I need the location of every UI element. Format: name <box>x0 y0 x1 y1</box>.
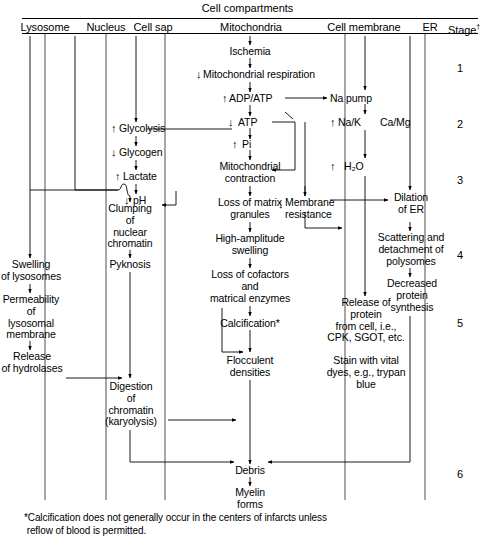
node-membrane-resistance: Membrane resistance <box>285 197 349 221</box>
node-atp: ATP <box>238 117 268 129</box>
arrow-glycolysis: ↑ <box>111 123 117 134</box>
arrow-glycogen: ↓ <box>111 147 117 158</box>
arrow-atp: ↓ <box>228 117 234 128</box>
figure-title: Cell compartments <box>0 2 495 14</box>
node-pi: Pi <box>242 139 264 151</box>
arrow-membrane-resistance: ↓ <box>278 199 284 210</box>
node-flocculent-densities: Flocculent densities <box>200 355 300 379</box>
node-debris: Debris <box>214 465 286 477</box>
column-header-stage: Stage† <box>436 21 492 36</box>
node-myelin-forms: Myelin forms <box>214 487 286 511</box>
flowchart-diagram: Cell compartments Lysosome Nucleus Cell … <box>0 0 495 547</box>
node-stain-with-vital-dyes: Stain with vital dyes, e.g., trypan blue <box>306 355 426 390</box>
column-header-cell-sap: Cell sap <box>108 21 198 33</box>
stage-number-6: 6 <box>448 468 472 480</box>
arrow-pi: ↑ <box>232 139 238 150</box>
stage-number-3: 3 <box>448 174 472 186</box>
footnote: *Calcification does not generally occur … <box>24 511 464 537</box>
node-loss-of-cofactors: Loss of cofactors and matrical enzymes <box>178 269 322 304</box>
node-permeability-of-lysosomal-membrane: Permeability of lysosomal membrane <box>0 294 62 341</box>
node-ischemia: Ischemia <box>205 46 295 58</box>
node-glycogen: Glycogen <box>119 147 179 159</box>
arrow-adp-atp: ↑ <box>222 93 228 104</box>
arrow-mitochondrial-respiration: ↓ <box>196 69 202 80</box>
node-calcification: Calcification* <box>203 318 297 330</box>
node-high-amplitude-swelling: High-amplitude swelling <box>190 233 310 257</box>
node-h2o: H₂O <box>344 161 374 173</box>
node-swelling-of-lysosomes: Swelling of lysosomes <box>0 259 62 283</box>
node-pyknosis: Pyknosis <box>92 259 168 271</box>
node-ca-mg: Ca/Mg <box>380 117 422 129</box>
node-mitochondrial-respiration: Mitochondrial respiration <box>203 69 348 81</box>
stage-number-2: 2 <box>448 118 472 130</box>
node-decreased-protein-synthesis: Decreased protein synthesis <box>372 278 452 313</box>
arrow-h2o: ↑ <box>330 161 336 172</box>
node-digestion-of-chromatin: Digestion of chromatin (karyolysis) <box>88 381 174 428</box>
node-glycolysis: Glycolysis <box>119 123 181 135</box>
stage-header-marker: † <box>476 23 480 30</box>
column-header-mitochondria: Mitochondria <box>196 21 306 33</box>
node-scattering-and-detachment: Scattering and detachment of polysomes <box>366 232 456 267</box>
stage-number-1: 1 <box>448 62 472 74</box>
stage-number-5: 5 <box>448 317 472 329</box>
arrow-na-k: ↑ <box>330 117 336 128</box>
node-release-of-hydrolases: Release of hydrolases <box>0 351 64 375</box>
node-adp-atp: ADP/ATP <box>229 93 285 105</box>
node-clumping-of-nuclear-chromatin: Clumping of nuclear chromatin <box>88 203 172 250</box>
node-lactate: Lactate <box>123 171 173 183</box>
node-mitochondrial-contraction: Mitochondrial contraction <box>190 161 310 185</box>
node-dilation-of-er: Dilation of ER <box>382 192 440 216</box>
node-na-pump: Na pump <box>330 93 388 105</box>
arrow-lactate: ↑ <box>115 171 121 182</box>
stage-header-text: Stage <box>448 24 476 36</box>
node-na-k: Na/K <box>338 117 374 129</box>
